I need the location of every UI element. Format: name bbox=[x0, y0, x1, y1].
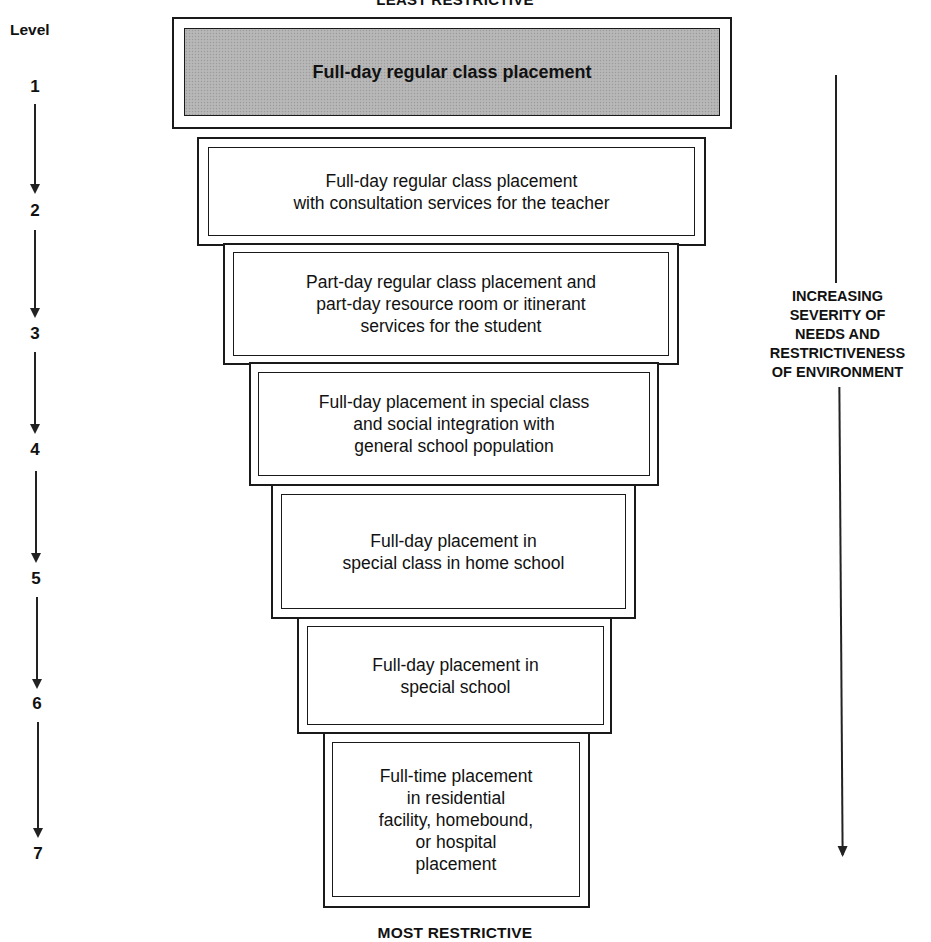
tier-box-7: Full-time placement in residential facil… bbox=[323, 732, 590, 908]
down-arrow-icon bbox=[36, 597, 38, 687]
down-arrow-icon bbox=[34, 230, 36, 316]
level-number-7: 7 bbox=[23, 844, 53, 864]
tier-label-6: Full-day placement in special school bbox=[307, 626, 604, 725]
down-arrow-icon bbox=[37, 722, 39, 836]
tier-label-3: Part-day regular class placement and par… bbox=[233, 252, 669, 356]
level-number-6: 6 bbox=[22, 694, 52, 714]
severity-label: INCREASING SEVERITY OF NEEDS AND RESTRIC… bbox=[744, 287, 931, 382]
level-number-1: 1 bbox=[20, 77, 50, 97]
down-arrow-icon bbox=[838, 387, 843, 855]
tier-label-2: Full-day regular class placement with co… bbox=[208, 147, 695, 236]
level-number-5: 5 bbox=[21, 569, 51, 589]
tier-label-7: Full-time placement in residential facil… bbox=[332, 742, 580, 897]
tier-box-3: Part-day regular class placement and par… bbox=[223, 243, 679, 365]
tier-box-4: Full-day placement in special class and … bbox=[249, 362, 659, 486]
tier-box-5: Full-day placement in special class in h… bbox=[271, 484, 636, 619]
down-arrow-icon bbox=[34, 352, 36, 432]
tier-box-6: Full-day placement in special school bbox=[297, 617, 612, 734]
level-number-3: 3 bbox=[20, 324, 50, 344]
down-arrow-icon bbox=[34, 104, 36, 192]
down-arrow-icon bbox=[35, 471, 37, 561]
level-header: Level bbox=[10, 21, 50, 39]
level-number-4: 4 bbox=[20, 440, 50, 460]
level-number-2: 2 bbox=[20, 201, 50, 221]
tier-label-1: Full-day regular class placement bbox=[184, 28, 720, 116]
severity-axis-line bbox=[835, 75, 837, 283]
tier-box-2: Full-day regular class placement with co… bbox=[197, 137, 706, 246]
tier-box-1: Full-day regular class placement bbox=[172, 17, 732, 129]
least-restrictive-label: LEAST RESTRICTIVE bbox=[300, 0, 610, 8]
most-restrictive-label: MOST RESTRICTIVE bbox=[330, 924, 580, 942]
tier-label-4: Full-day placement in special class and … bbox=[258, 372, 650, 476]
tier-label-5: Full-day placement in special class in h… bbox=[281, 494, 626, 609]
